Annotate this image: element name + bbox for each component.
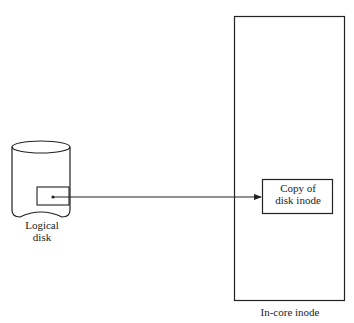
copy-of-disk-inode-label: Copy of disk inode bbox=[263, 182, 333, 206]
logical-disk-label-line2: disk bbox=[14, 231, 70, 243]
diagram-graphics bbox=[0, 0, 354, 323]
in-core-inode-label: In-core inode bbox=[240, 306, 340, 318]
copy-label-line2: disk inode bbox=[263, 194, 333, 206]
logical-disk-label-line1: Logical bbox=[14, 219, 70, 231]
diagram-canvas: Logical disk Copy of disk inode In-core … bbox=[0, 0, 354, 323]
logical-disk-cylinder bbox=[12, 141, 70, 217]
in-core-inode-box bbox=[235, 17, 345, 301]
copy-label-line1: Copy of bbox=[263, 182, 333, 194]
logical-disk-label: Logical disk bbox=[14, 219, 70, 243]
